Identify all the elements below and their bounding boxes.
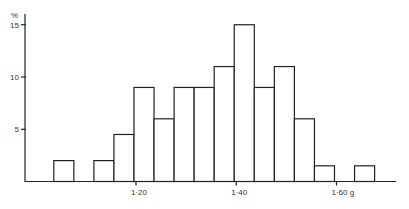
x-tick-label: 1·60 g bbox=[332, 188, 355, 197]
histogram-bar bbox=[114, 134, 134, 181]
histogram-bar bbox=[355, 166, 375, 182]
histogram-bar bbox=[314, 166, 334, 182]
histogram-bar bbox=[154, 119, 174, 182]
y-tick-label: 5 bbox=[15, 125, 20, 134]
histogram-bar bbox=[254, 87, 274, 181]
y-tick-label: 10 bbox=[10, 73, 19, 82]
histogram-bar bbox=[194, 87, 214, 181]
histogram-bar bbox=[54, 161, 74, 182]
x-tick-label: 1·20 bbox=[131, 188, 148, 197]
histogram-bar bbox=[234, 25, 254, 182]
y-tick-label: 15 bbox=[10, 21, 19, 30]
x-tick-label: 1·40 bbox=[231, 188, 248, 197]
histogram-bar bbox=[294, 119, 314, 182]
histogram-bar bbox=[174, 87, 194, 181]
y-axis-unit-label: % bbox=[11, 11, 18, 20]
x-ticks: 1·201·401·60 g bbox=[131, 182, 354, 197]
histogram-bar bbox=[214, 67, 234, 182]
histogram-bar bbox=[134, 87, 154, 181]
histogram-bars bbox=[54, 25, 375, 182]
y-ticks: 51015 bbox=[10, 21, 26, 135]
histogram-bar bbox=[94, 161, 114, 182]
histogram-bar bbox=[274, 67, 294, 182]
histogram-chart: 51015 1·201·401·60 g % bbox=[0, 0, 409, 209]
